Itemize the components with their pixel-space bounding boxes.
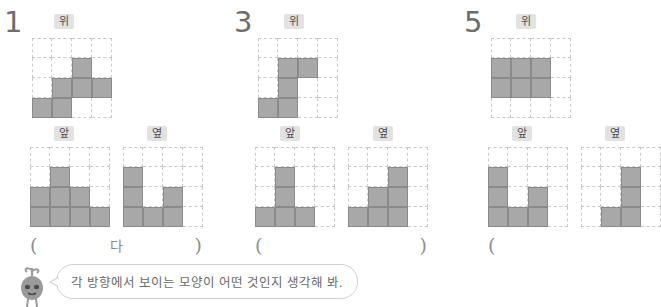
grid-cell-empty[interactable] — [70, 147, 90, 167]
grid-cell-empty[interactable] — [183, 167, 203, 187]
grid-cell-filled[interactable] — [258, 98, 278, 118]
grid-cell-empty[interactable] — [491, 38, 511, 58]
grid-cell-filled[interactable] — [531, 58, 551, 78]
grid-cell-empty[interactable] — [508, 147, 528, 167]
grid-cell-empty[interactable] — [641, 207, 661, 227]
grid-cell-empty[interactable] — [70, 167, 90, 187]
grid-cell-filled[interactable] — [30, 207, 50, 227]
grid-cell-filled[interactable] — [528, 207, 548, 227]
grid-cell-filled[interactable] — [123, 167, 143, 187]
grid-cell-empty[interactable] — [143, 147, 163, 167]
grid-cell-empty[interactable] — [548, 147, 568, 167]
grid-cell-empty[interactable] — [508, 167, 528, 187]
grid-cell-empty[interactable] — [92, 38, 112, 58]
grid-cell-empty[interactable] — [143, 167, 163, 187]
grid-cell-empty[interactable] — [318, 78, 338, 98]
grid-cell-empty[interactable] — [183, 187, 203, 207]
grid-cell-filled[interactable] — [275, 167, 295, 187]
grid-cell-empty[interactable] — [295, 147, 315, 167]
grid-cell-empty[interactable] — [258, 58, 278, 78]
grid-cell-filled[interactable] — [72, 58, 92, 78]
grid-cell-filled[interactable] — [348, 207, 368, 227]
grid-cell-empty[interactable] — [581, 167, 601, 187]
grid-cell-empty[interactable] — [255, 147, 275, 167]
grid-cell-empty[interactable] — [90, 187, 110, 207]
grid-cell-filled[interactable] — [488, 187, 508, 207]
grid-cell-filled[interactable] — [32, 98, 52, 118]
grid-cell-empty[interactable] — [601, 147, 621, 167]
grid-cell-filled[interactable] — [50, 167, 70, 187]
grid-cell-empty[interactable] — [72, 98, 92, 118]
grid-cell-filled[interactable] — [50, 207, 70, 227]
grid-cell-filled[interactable] — [298, 58, 318, 78]
grid-cell-empty[interactable] — [508, 187, 528, 207]
grid-cell-empty[interactable] — [315, 207, 335, 227]
grid-cell-filled[interactable] — [621, 187, 641, 207]
grid-cell-filled[interactable] — [531, 78, 551, 98]
grid-cell-filled[interactable] — [601, 207, 621, 227]
grid-cell-empty[interactable] — [621, 147, 641, 167]
grid-cell-filled[interactable] — [621, 167, 641, 187]
grid-cell-empty[interactable] — [511, 38, 531, 58]
grid-cell-filled[interactable] — [163, 187, 183, 207]
grid-cell-empty[interactable] — [641, 187, 661, 207]
grid-cell-empty[interactable] — [641, 167, 661, 187]
grid-cell-filled[interactable] — [511, 58, 531, 78]
grid-cell-filled[interactable] — [30, 187, 50, 207]
grid-cell-empty[interactable] — [92, 58, 112, 78]
grid-cell-empty[interactable] — [531, 38, 551, 58]
grid-cell-empty[interactable] — [581, 147, 601, 167]
grid-cell-empty[interactable] — [295, 167, 315, 187]
grid-cell-filled[interactable] — [90, 207, 110, 227]
grid-cell-filled[interactable] — [255, 207, 275, 227]
grid-cell-empty[interactable] — [278, 38, 298, 58]
grid-cell-empty[interactable] — [368, 147, 388, 167]
grid-cell-filled[interactable] — [52, 78, 72, 98]
grid-cell-filled[interactable] — [528, 187, 548, 207]
grid-cell-empty[interactable] — [258, 38, 278, 58]
grid-cell-empty[interactable] — [90, 167, 110, 187]
grid-cell-empty[interactable] — [551, 98, 571, 118]
grid-cell-filled[interactable] — [388, 207, 408, 227]
grid-cell-empty[interactable] — [315, 187, 335, 207]
grid-cell-filled[interactable] — [295, 207, 315, 227]
grid-cell-empty[interactable] — [52, 38, 72, 58]
grid-cell-filled[interactable] — [92, 78, 112, 98]
grid-cell-empty[interactable] — [528, 167, 548, 187]
grid-cell-filled[interactable] — [388, 187, 408, 207]
grid-cell-empty[interactable] — [123, 147, 143, 167]
grid-cell-empty[interactable] — [30, 147, 50, 167]
grid-cell-empty[interactable] — [548, 207, 568, 227]
grid-cell-empty[interactable] — [318, 38, 338, 58]
grid-cell-empty[interactable] — [143, 187, 163, 207]
grid-cell-empty[interactable] — [348, 167, 368, 187]
answer-field[interactable]: ( ) — [255, 234, 427, 256]
grid-cell-empty[interactable] — [183, 147, 203, 167]
grid-cell-empty[interactable] — [388, 147, 408, 167]
grid-cell-filled[interactable] — [508, 207, 528, 227]
grid-cell-filled[interactable] — [368, 187, 388, 207]
grid-cell-filled[interactable] — [275, 207, 295, 227]
grid-cell-empty[interactable] — [318, 58, 338, 78]
grid-cell-empty[interactable] — [30, 167, 50, 187]
grid-cell-empty[interactable] — [408, 147, 428, 167]
grid-cell-empty[interactable] — [52, 58, 72, 78]
grid-cell-empty[interactable] — [551, 38, 571, 58]
grid-cell-filled[interactable] — [123, 207, 143, 227]
grid-cell-filled[interactable] — [621, 207, 641, 227]
grid-cell-empty[interactable] — [32, 78, 52, 98]
grid-cell-empty[interactable] — [551, 78, 571, 98]
grid-cell-empty[interactable] — [298, 98, 318, 118]
grid-cell-empty[interactable] — [601, 167, 621, 187]
grid-cell-empty[interactable] — [318, 98, 338, 118]
grid-cell-filled[interactable] — [491, 58, 511, 78]
grid-cell-filled[interactable] — [388, 167, 408, 187]
grid-cell-filled[interactable] — [50, 187, 70, 207]
grid-cell-filled[interactable] — [275, 187, 295, 207]
grid-cell-empty[interactable] — [581, 207, 601, 227]
grid-cell-empty[interactable] — [275, 147, 295, 167]
grid-cell-filled[interactable] — [70, 207, 90, 227]
grid-cell-empty[interactable] — [581, 187, 601, 207]
grid-cell-empty[interactable] — [315, 167, 335, 187]
grid-cell-empty[interactable] — [255, 167, 275, 187]
